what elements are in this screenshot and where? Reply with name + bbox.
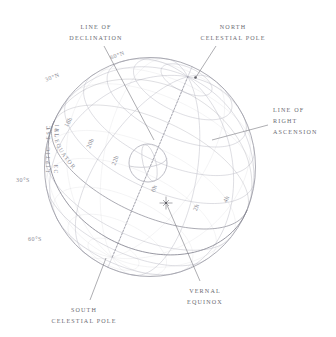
dec-60n: 60°N	[109, 50, 125, 61]
callout-labels: LINE OFDECLINATIONNORTHCELESTIAL POLELIN…	[51, 24, 317, 324]
dec-30n: 30°N	[44, 72, 60, 83]
celestial-sphere-diagram: CELESTIAL EQUATORECLIPTIC 18h20h22h0h2h4…	[0, 0, 336, 337]
markers	[160, 76, 197, 209]
line-of-right-ascension-leader	[212, 125, 268, 140]
line-of-right-ascension-line-1: LINE OF	[273, 107, 304, 113]
line-of-right-ascension-line-2: RIGHT	[273, 118, 297, 124]
dec-60s: 60°S	[28, 236, 42, 242]
ra-meridian-10h	[112, 81, 224, 258]
north-celestial-pole-leader	[196, 46, 216, 77]
ecliptic-curve	[118, 211, 247, 255]
ra-meridian-20h	[58, 221, 112, 257]
vernal-equinox-line-1: VERNAL	[189, 288, 221, 294]
declination-ring--60	[108, 267, 135, 275]
line-of-right-ascension-label: LINE OFRIGHTASCENSION	[273, 107, 318, 135]
vernal-equinox-label: VERNALEQUINOX	[187, 288, 223, 305]
declination-ring-60	[134, 58, 174, 111]
celestial-equator	[54, 105, 249, 211]
south-celestial-pole-line-1: SOUTH	[71, 307, 97, 313]
south-celestial-pole-label: SOUTHCELESTIAL POLE	[51, 307, 116, 324]
vernal-equinox-marker	[160, 197, 173, 210]
celestial-equator	[132, 211, 247, 229]
ra-20h: 20h	[84, 136, 95, 149]
declination-ring-60	[165, 59, 218, 83]
vernal-equinox-line-2: EQUINOX	[187, 299, 223, 305]
earth-equator-line	[129, 158, 167, 167]
declination-ring-45	[107, 61, 164, 134]
ecliptic-label-text: ECLIPTIC	[45, 146, 59, 175]
south-celestial-pole-line-2: CELESTIAL POLE	[51, 318, 116, 324]
declination-ring--15	[122, 233, 230, 250]
star-core	[165, 202, 167, 204]
earth-globe-symbol	[129, 143, 167, 183]
ra-meridian-14h	[100, 59, 166, 258]
north-celestial-pole-label: NORTHCELESTIAL POLE	[200, 24, 265, 41]
ra-meridian-6h	[112, 214, 245, 267]
declination-ring-15	[70, 84, 255, 181]
north-celestial-pole-line-2: CELESTIAL POLE	[200, 35, 265, 41]
line-of-declination-label: LINE OFDECLINATION	[69, 24, 122, 41]
dec-30s: 30°S	[16, 177, 30, 183]
hour-labels: 18h20h22h0h2h4h	[62, 115, 230, 211]
ecliptic-label: ECLIPTIC	[45, 146, 59, 175]
north-celestial-pole-line-1: NORTH	[220, 24, 246, 30]
ra-0h: 0h	[149, 184, 158, 193]
ra-2h: 2h	[191, 202, 200, 211]
diagram-canvas: CELESTIAL EQUATORECLIPTIC 18h20h22h0h2h4…	[0, 0, 336, 337]
line-of-declination-line-1: LINE OF	[80, 24, 111, 30]
line-of-right-ascension-line-3: ASCENSION	[273, 129, 318, 135]
ra-22h: 22h	[110, 154, 120, 167]
declination-ring-15	[142, 181, 255, 203]
declination-ring-30	[94, 68, 254, 148]
declination-ring-30	[153, 148, 254, 176]
south-celestial-pole-leader	[90, 258, 106, 300]
vernal-equinox-leader	[167, 205, 200, 281]
ra-meridian-2h	[132, 77, 200, 276]
declination-ring-45	[164, 116, 247, 147]
declination-labels: 60°N30°N30°S60°S	[16, 50, 125, 242]
line-of-declination-line-2: DECLINATION	[69, 35, 122, 41]
